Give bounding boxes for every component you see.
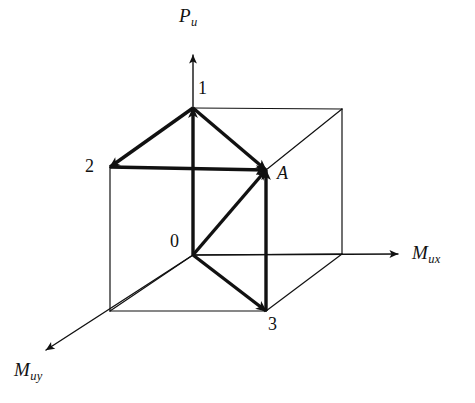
axis-group (46, 55, 398, 350)
vector-o-to-a (193, 170, 266, 255)
point-label-2: 2 (85, 157, 94, 175)
vector-1-to-2 (110, 108, 193, 167)
vector-group (110, 108, 266, 311)
axis-subscript-mux: ux (428, 252, 440, 266)
axis-symbol-muy: M (14, 359, 30, 380)
vector-o-to-3 (193, 255, 266, 311)
vector-2-to-a (110, 167, 266, 170)
moment-y-axis (46, 255, 193, 350)
point-label-1: 1 (198, 79, 207, 97)
point-label-a: A (277, 164, 288, 182)
edge-diagonal-top-right (266, 109, 342, 170)
axis-subscript-pu: u (191, 15, 197, 29)
point-label-3: 3 (268, 315, 277, 333)
axis-label-mux: Mux (412, 243, 440, 262)
vector-1-to-a (193, 108, 266, 170)
axis-subscript-muy: uy (30, 369, 42, 383)
axis-symbol-pu: P (179, 5, 191, 26)
axis-label-muy: Muy (14, 360, 42, 379)
edge-back-top (193, 108, 342, 109)
edge-diagonal-bottom-right (266, 254, 342, 311)
diagram-canvas (0, 0, 475, 403)
interaction-diagram-figure: Pu Mux Muy 0 1 2 3 A (0, 0, 475, 403)
axis-label-pu: Pu (179, 6, 197, 25)
axis-symbol-mux: M (412, 242, 428, 263)
moment-x-axis (193, 254, 398, 255)
point-label-origin: 0 (170, 232, 179, 250)
